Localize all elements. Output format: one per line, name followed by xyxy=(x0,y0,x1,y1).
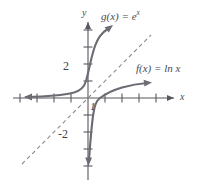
log-down-arrowhead xyxy=(85,158,92,166)
y-tick-label-negative-2: -2 xyxy=(58,128,68,140)
curve-logarithm xyxy=(85,80,152,166)
plot-canvas xyxy=(0,0,197,190)
graph-figure: g(x) = ex f(x) = ln x y x 2 -2 1 xyxy=(0,0,197,190)
x-axis-label: x xyxy=(180,92,184,102)
log-right-arrowhead xyxy=(144,80,152,87)
identity-line-dashed xyxy=(22,35,151,164)
curve-label-logarithm: f(x) = ln x xyxy=(136,63,180,74)
exponent-x: x xyxy=(137,8,140,17)
exp-left-arrowhead xyxy=(24,94,32,101)
x-tick-label-1: 1 xyxy=(90,101,96,112)
y-axis-label: y xyxy=(82,8,86,18)
curve-label-exponential: g(x) = ex xyxy=(101,9,140,22)
y-tick-label-2: 2 xyxy=(63,60,69,72)
